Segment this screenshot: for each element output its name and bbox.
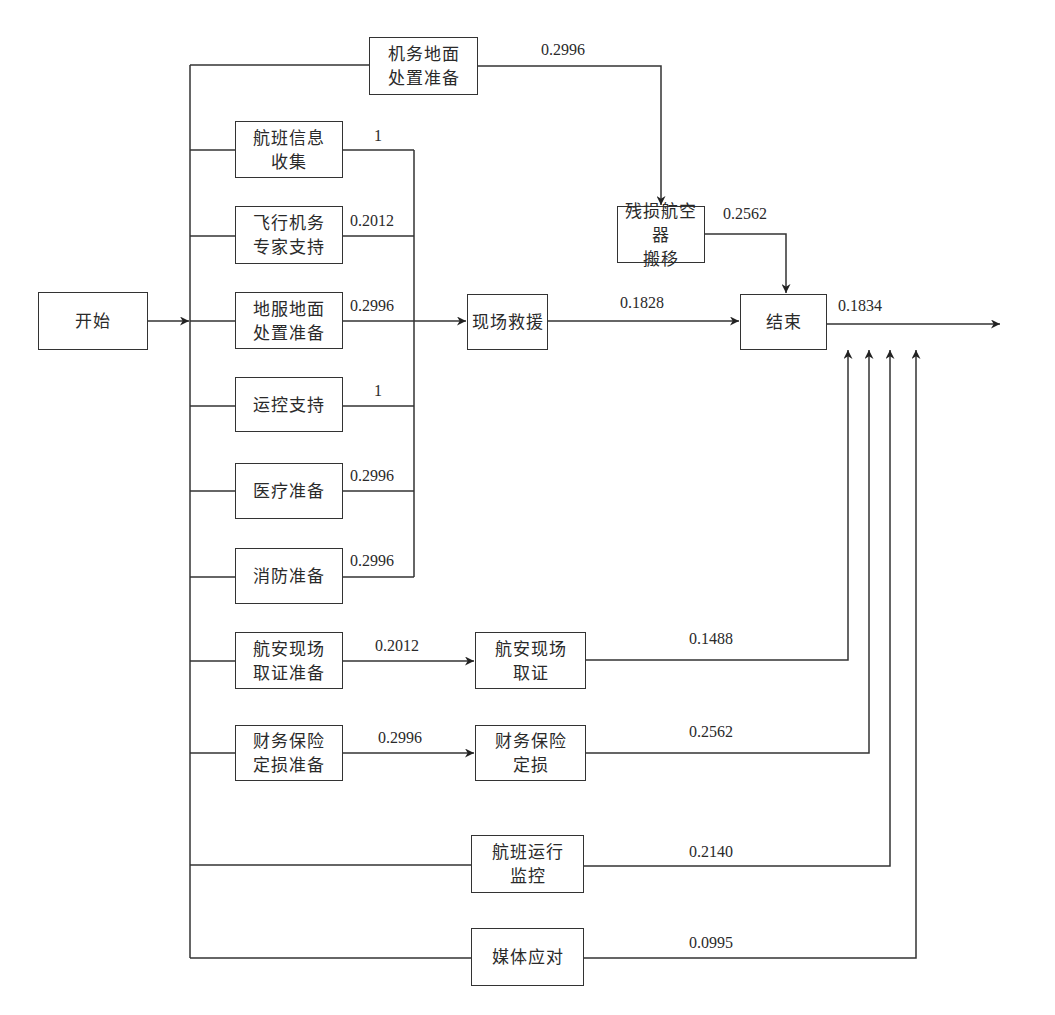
node-label: 媒体应对 — [492, 945, 564, 969]
node-ops-support: 运控支持 — [235, 377, 343, 432]
node-safety-evidence-prep: 航安现场 取证准备 — [235, 632, 343, 689]
node-media-response: 媒体应对 — [471, 928, 584, 986]
node-finance-insurance: 财务保险 定损 — [475, 725, 586, 781]
edge-label: 0.2996 — [541, 41, 585, 59]
node-ground-service-prep: 地服地面 处置准备 — [235, 292, 343, 349]
node-label: 残损航空器 搬移 — [618, 199, 704, 271]
node-label: 飞行机务 专家支持 — [253, 211, 325, 259]
edge-label: 0.2996 — [350, 297, 394, 315]
node-damaged-aircraft-removal: 残损航空器 搬移 — [617, 206, 705, 263]
node-label: 地服地面 处置准备 — [253, 297, 325, 345]
edge-label: 1 — [374, 127, 382, 145]
node-flight-ops-monitor: 航班运行 监控 — [471, 835, 584, 893]
node-end: 结束 — [740, 294, 827, 350]
edge-label: 0.1828 — [620, 294, 664, 312]
node-label: 财务保险 定损 — [495, 729, 567, 777]
node-medical-prep: 医疗准备 — [235, 463, 343, 519]
node-label: 医疗准备 — [253, 479, 325, 503]
edge-label: 0.0995 — [689, 934, 733, 952]
node-label: 财务保险 定损准备 — [253, 729, 325, 777]
edge-label: 0.2140 — [689, 843, 733, 861]
node-label: 开始 — [75, 309, 111, 333]
node-label: 运控支持 — [253, 393, 325, 417]
node-label: 航安现场 取证准备 — [253, 637, 325, 685]
node-flight-expert: 飞行机务 专家支持 — [235, 206, 343, 264]
node-label: 消防准备 — [253, 564, 325, 588]
edge-label: 0.2012 — [375, 637, 419, 655]
edge-label: 0.2012 — [350, 212, 394, 230]
node-aircraft-ground-prep: 机务地面 处置准备 — [369, 37, 478, 95]
node-start: 开始 — [38, 292, 148, 350]
node-label: 航安现场 取证 — [495, 637, 567, 685]
edge-label: 0.2996 — [378, 729, 422, 747]
edge-label: 0.1488 — [689, 630, 733, 648]
edge-label: 0.1834 — [838, 297, 882, 315]
node-safety-evidence: 航安现场 取证 — [475, 632, 586, 689]
node-label: 航班信息 收集 — [253, 126, 325, 174]
edge-label: 0.2562 — [689, 723, 733, 741]
edge-label: 1 — [374, 382, 382, 400]
node-label: 航班运行 监控 — [492, 840, 564, 888]
node-label: 机务地面 处置准备 — [388, 42, 460, 90]
edge-label: 0.2562 — [723, 205, 767, 223]
node-finance-insurance-prep: 财务保险 定损准备 — [235, 725, 343, 781]
node-label: 结束 — [766, 310, 802, 334]
node-fire-prep: 消防准备 — [235, 548, 343, 604]
node-label: 现场救援 — [472, 310, 544, 334]
edge-label: 0.2996 — [350, 552, 394, 570]
edge-label: 0.2996 — [350, 467, 394, 485]
node-onsite-rescue: 现场救援 — [467, 294, 548, 350]
node-flight-info: 航班信息 收集 — [235, 121, 343, 178]
